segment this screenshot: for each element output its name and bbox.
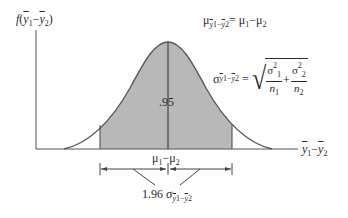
y-axis-label: f(y1−y2) xyxy=(16,13,53,28)
normal-curve-diagram xyxy=(0,0,348,218)
area-label: .95 xyxy=(159,96,174,108)
square-root: √ σ21n1 + σ22n2 xyxy=(252,58,308,99)
mean-formula: μy1−y2= μ1−μ2 xyxy=(203,14,267,29)
x-axis-label: y1−y2 xyxy=(302,143,327,158)
interval-label: 1.96 σy1−y2 xyxy=(142,188,192,203)
sd-formula: σy1−y2 = √ σ21n1 + σ22n2 xyxy=(213,58,308,99)
center-label: μ1−μ2 xyxy=(152,152,180,167)
